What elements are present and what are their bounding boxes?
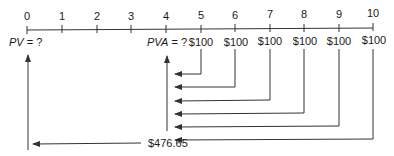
period-label-6: 6 xyxy=(232,9,238,21)
diagram-lines xyxy=(0,0,394,156)
pva-unknown: = ? xyxy=(168,36,187,48)
period-label-3: 3 xyxy=(128,10,134,22)
pv-variable: PV xyxy=(9,36,24,48)
pv-unknown: = ? xyxy=(24,36,43,48)
period-label-10: 10 xyxy=(367,7,379,19)
pva-label: PVA = ? xyxy=(147,36,187,48)
period-label-4: 4 xyxy=(163,10,169,22)
payment-label-8: $100 xyxy=(293,35,317,47)
arrow-period-8 xyxy=(175,49,304,114)
arrow-period-5 xyxy=(175,49,201,74)
period-label-1: 1 xyxy=(59,10,65,22)
payment-label-6: $100 xyxy=(224,36,248,48)
pv-label: PV = ? xyxy=(9,36,42,48)
payment-label-9: $100 xyxy=(327,35,351,47)
payment-label-7: $100 xyxy=(258,35,282,47)
total-discount-arrow xyxy=(33,143,141,144)
annuity-timeline-diagram: 0 1 2 3 4 5 6 7 8 9 10 PV = ? PVA = ? $1… xyxy=(0,0,394,156)
period-label-9: 9 xyxy=(336,8,342,20)
period-label-5: 5 xyxy=(198,9,204,21)
total-value-label: $476.65 xyxy=(148,137,188,149)
timeline-axis xyxy=(27,28,373,30)
period-label-7: 7 xyxy=(267,8,273,20)
period-label-8: 8 xyxy=(301,8,307,20)
discount-arrows xyxy=(175,49,373,140)
arrow-period-9 xyxy=(175,49,339,127)
arrow-period-7 xyxy=(175,49,270,101)
payment-label-10: $100 xyxy=(362,34,386,46)
period-label-0: 0 xyxy=(24,10,30,22)
payment-label-5: $100 xyxy=(189,36,213,48)
arrow-period-6 xyxy=(175,49,235,87)
pva-variable: PVA xyxy=(147,36,168,48)
period-label-2: 2 xyxy=(94,10,100,22)
